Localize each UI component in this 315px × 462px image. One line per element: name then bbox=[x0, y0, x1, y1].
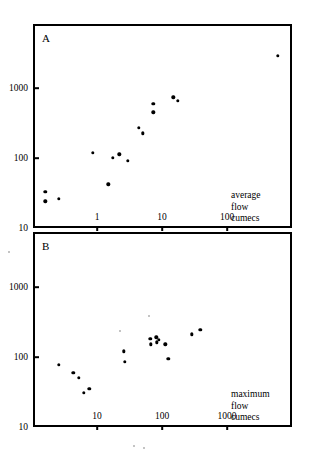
x-axis-tick bbox=[161, 425, 163, 430]
panel-b-caption-line-3: cumecs bbox=[231, 412, 270, 424]
x-axis-tick bbox=[226, 425, 228, 430]
panel-b-axis-caption: maximum flow cumecs bbox=[231, 389, 270, 424]
x-axis-tick-label: 100 bbox=[155, 411, 169, 421]
figure-canvas: A 110100101001000 average flow cumecs B … bbox=[0, 0, 315, 462]
y-axis-tick bbox=[33, 356, 39, 358]
scan-speck bbox=[8, 251, 10, 253]
scan-speck bbox=[119, 330, 121, 332]
y-axis-tick-label: 1000 bbox=[0, 282, 28, 292]
panel-b-caption-line-2: flow bbox=[231, 401, 270, 413]
y-axis-tick-label: 100 bbox=[0, 352, 28, 362]
y-axis-tick-label: 10 bbox=[0, 422, 28, 432]
scan-speck bbox=[133, 445, 135, 447]
y-axis-tick bbox=[33, 286, 39, 288]
x-axis-tick-label: 10 bbox=[92, 411, 102, 421]
panel-b-caption-line-1: maximum bbox=[231, 389, 270, 401]
x-axis-tick bbox=[96, 425, 98, 430]
scan-speck bbox=[143, 447, 145, 449]
scan-speck bbox=[148, 315, 150, 317]
